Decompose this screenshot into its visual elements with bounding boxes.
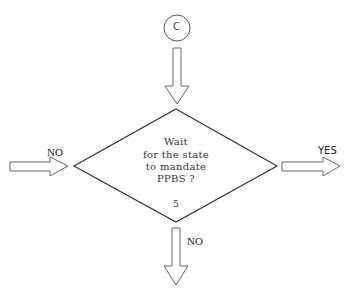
arrow-down-top bbox=[165, 48, 189, 104]
arrow-down-bottom bbox=[164, 228, 188, 285]
arrow-right-out bbox=[282, 157, 340, 176]
decision-line-3: to mandate bbox=[126, 161, 226, 174]
connector-label: C bbox=[173, 21, 180, 32]
arrow-right-in bbox=[10, 157, 68, 176]
decision-line-4: PPBS ? bbox=[126, 173, 226, 186]
decision-line-1: Wait bbox=[126, 136, 226, 149]
right-arrow-label: YES bbox=[318, 145, 337, 156]
decision-line-2: for the state bbox=[126, 149, 226, 162]
left-arrow-label: NO bbox=[47, 146, 63, 158]
decision-number: 5 bbox=[126, 198, 226, 211]
bottom-arrow-label: NO bbox=[187, 235, 203, 247]
